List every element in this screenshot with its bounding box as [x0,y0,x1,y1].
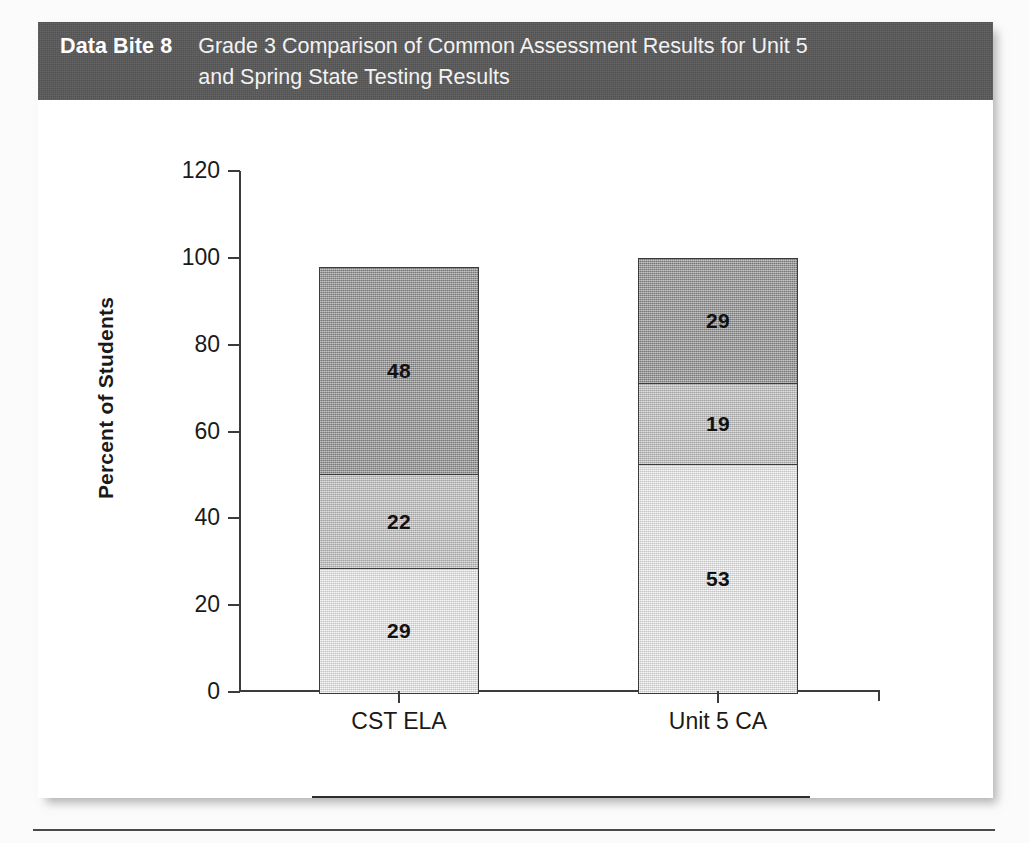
y-axis-tick [228,170,240,172]
y-axis-tick [228,691,240,693]
bar-segment: 29 [319,568,479,694]
y-axis-tick-label: 100 [70,244,220,271]
y-axis-tick [228,257,240,259]
chart-plot-area: Percent of Students 020406080100120 4822… [38,100,993,798]
y-axis-tick-label: 20 [70,591,220,618]
bar-segment-value: 48 [387,359,411,383]
x-axis-category-label: CST ELA [279,708,519,735]
x-axis-tick [717,691,719,703]
y-axis-tick-label: 40 [70,504,220,531]
page-bottom-rule [33,829,995,831]
card-title-line-2: and Spring State Testing Results [198,62,807,93]
card-header-content: Data Bite 8 Grade 3 Comparison of Common… [60,31,983,93]
y-axis-title: Percent of Students [94,268,118,528]
bar-segment: 22 [319,474,479,570]
bar-segment-value: 22 [387,510,411,534]
y-axis-tick [228,431,240,433]
stacked-bar: 482229 [319,267,479,692]
x-axis-tick [398,691,400,703]
y-axis-tick [228,604,240,606]
card-title-line-1: Grade 3 Comparison of Common Assessment … [198,31,807,62]
bar-segment: 48 [319,267,479,475]
y-axis-tick [228,517,240,519]
x-axis-end-tick [878,690,880,701]
bar-segment: 29 [638,258,798,384]
bar-segment-value: 19 [706,412,730,436]
data-bite-card: Data Bite 8 Grade 3 Comparison of Common… [38,22,993,798]
y-axis-tick-label: 0 [70,678,220,705]
y-axis-tick-label: 80 [70,331,220,358]
bar-segment: 53 [638,464,798,694]
bar-segment: 19 [638,383,798,465]
stacked-bar: 291953 [638,258,798,692]
card-header-band: Data Bite 8 Grade 3 Comparison of Common… [38,22,993,100]
bar-segment-value: 29 [706,309,730,333]
bar-segment-value: 53 [706,567,730,591]
card-title: Grade 3 Comparison of Common Assessment … [198,31,807,93]
x-axis-category-label: Unit 5 CA [598,708,838,735]
y-axis-tick-label: 60 [70,418,220,445]
bar-segment-value: 29 [387,619,411,643]
chart-legend: FBB/BB Basic Prof/Adv [312,796,810,798]
y-axis-tick [228,344,240,346]
data-bite-badge: Data Bite 8 [60,31,172,62]
y-axis-tick-label: 120 [70,157,220,184]
